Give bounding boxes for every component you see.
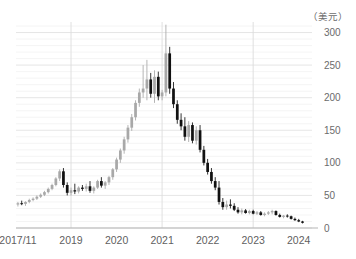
y-tick-label: 50 xyxy=(324,190,336,201)
x-tick-label: 2020 xyxy=(105,234,129,246)
x-tick-label: 2017/11 xyxy=(0,234,37,246)
chart-plot-area: 050100150200250300 2017/1120192020202120… xyxy=(0,0,356,259)
x-tick-label: 2023 xyxy=(242,234,266,246)
y-tick-label: 250 xyxy=(324,60,341,71)
y-axis-tick-labels: 050100150200250300 xyxy=(324,27,341,233)
y-tick-label: 0 xyxy=(324,223,330,234)
major-vertical-gridlines xyxy=(71,22,253,228)
x-axis-tick-labels: 2017/11201920202021202220232024 xyxy=(0,234,311,246)
minor-gridlines xyxy=(16,26,312,228)
y-tick-label: 300 xyxy=(324,27,341,38)
x-tick-label: 2022 xyxy=(196,234,220,246)
x-tick-label: 2024 xyxy=(287,234,311,246)
y-tick-label: 150 xyxy=(324,125,341,136)
candlestick-chart: （美元） 050100150200250300 2017/11201920202… xyxy=(0,0,356,259)
y-tick-label: 100 xyxy=(324,157,341,168)
x-tick-label: 2019 xyxy=(59,234,83,246)
y-tick-label: 200 xyxy=(324,92,341,103)
x-tick-label: 2021 xyxy=(150,234,174,246)
